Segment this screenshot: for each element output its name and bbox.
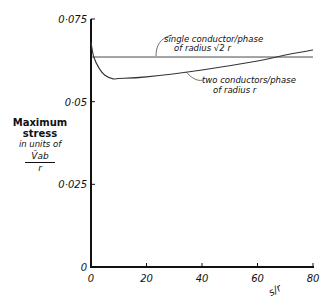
y-label-title-2: stress bbox=[8, 128, 72, 139]
annotation-two-line1: two conductors/phase bbox=[202, 75, 296, 85]
y-tick-label: 0·075 bbox=[58, 14, 87, 25]
x-tick-label: 80 bbox=[307, 273, 320, 284]
y-axis-label: Maximum stress in units of V̂ab r bbox=[8, 117, 72, 173]
annotation-two-line2: of radius r bbox=[213, 85, 257, 95]
x-tick-label: 20 bbox=[140, 273, 153, 284]
y-tick-label: 0·05 bbox=[65, 97, 87, 108]
annotation-leader-two bbox=[186, 72, 203, 80]
y-label-title-1: Maximum bbox=[8, 117, 72, 128]
y-tick-label: 0·025 bbox=[58, 179, 87, 190]
x-tick-label: 0 bbox=[88, 273, 94, 284]
y-label-denominator: r bbox=[25, 163, 54, 173]
x-tick-label: 40 bbox=[196, 273, 209, 284]
y-label-units: in units of bbox=[8, 139, 72, 149]
y-label-numerator: V̂ab bbox=[25, 151, 54, 163]
y-tick-label: 0 bbox=[81, 262, 87, 273]
y-label-fraction: V̂ab r bbox=[25, 151, 54, 173]
x-tick-label: 60 bbox=[251, 273, 264, 284]
annotation-single-line2: of radius √2 r bbox=[174, 43, 231, 53]
x-axis-label: s/r bbox=[267, 282, 284, 298]
